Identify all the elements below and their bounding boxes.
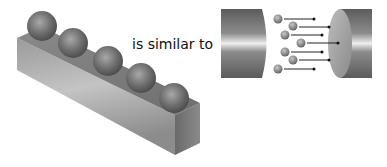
electron-icon bbox=[281, 31, 290, 40]
caption-text: is similar to bbox=[132, 36, 213, 52]
electron-6 bbox=[289, 56, 331, 65]
left-conductor bbox=[221, 9, 267, 78]
electron-icon bbox=[281, 48, 290, 57]
block-with-spheres bbox=[17, 11, 200, 155]
electron-icon bbox=[289, 22, 298, 31]
diagram-canvas bbox=[0, 0, 387, 167]
electron-2 bbox=[289, 22, 331, 31]
sphere-icon bbox=[93, 46, 123, 76]
electron-icon bbox=[274, 65, 283, 74]
electron-icon bbox=[274, 15, 283, 24]
sphere-icon bbox=[58, 28, 88, 58]
electrons-between-conductors bbox=[221, 9, 372, 78]
sphere-icon bbox=[27, 11, 57, 41]
sphere-icon bbox=[126, 63, 156, 93]
electron-7 bbox=[274, 65, 316, 74]
electron-icon bbox=[297, 39, 306, 48]
sphere-icon bbox=[159, 83, 189, 113]
electron-5 bbox=[281, 48, 324, 57]
electron-3 bbox=[281, 31, 324, 40]
electron-icon bbox=[289, 56, 298, 65]
